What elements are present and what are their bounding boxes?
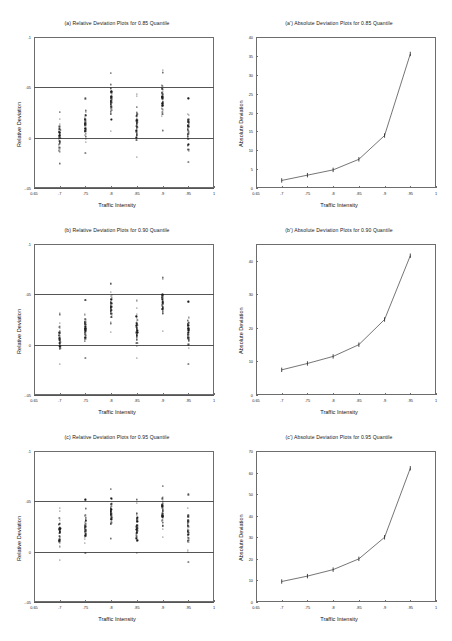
panel-title-c-prime: (c') Absolute Deviation Plots for 0.95 Q… xyxy=(228,434,450,440)
y-tick-label: 10 xyxy=(249,148,253,153)
x-tick-label: .85 xyxy=(356,191,361,196)
x-tick-label: .95 xyxy=(408,398,413,403)
x-axis-title-b: Traffic Intensity xyxy=(6,409,228,415)
x-tick-label: 0.65 xyxy=(30,398,38,403)
y-tick-label: 10 xyxy=(249,578,253,583)
x-tick-label: .9 xyxy=(161,605,164,610)
x-tick-label: 0.65 xyxy=(252,398,260,403)
x-tick-label: .7 xyxy=(280,191,283,196)
x-tick-label: .8 xyxy=(332,605,335,610)
y-tick xyxy=(34,37,36,38)
panel-title-b: (b) Relative Deviation Plots for 0.90 Qu… xyxy=(6,227,228,233)
x-tick-label: .75 xyxy=(305,191,310,196)
plot-area-c: 0.65.7.75.8.85.9.951-.050.05.1 xyxy=(34,451,214,602)
y-tick-label: 30 xyxy=(249,535,253,540)
y-tick-label: .1 xyxy=(28,242,31,247)
x-tick-label: .95 xyxy=(408,191,413,196)
x-tick-label: .8 xyxy=(110,191,113,196)
y-tick-label: -.05 xyxy=(24,600,31,605)
y-tick-label: .1 xyxy=(28,35,31,40)
x-tick xyxy=(436,600,437,602)
x-tick-label: .7 xyxy=(58,605,61,610)
x-tick-label: .7 xyxy=(280,398,283,403)
deviation-curve xyxy=(256,451,436,602)
panel-c: (c) Relative Deviation Plots for 0.95 Qu… xyxy=(6,434,228,634)
y-tick-label: 40 xyxy=(249,35,253,40)
y-tick-label: 20 xyxy=(249,325,253,330)
x-tick-label: .75 xyxy=(305,398,310,403)
x-tick-label: 0.65 xyxy=(30,605,38,610)
reference-line xyxy=(34,188,214,189)
y-tick-label: 10 xyxy=(249,359,253,364)
x-tick-label: 1 xyxy=(213,191,215,196)
x-tick-label: .95 xyxy=(186,398,191,403)
panel-a-prime: (a') Absolute Deviation Plots for 0.85 Q… xyxy=(228,20,450,220)
panel-title-a-prime: (a') Absolute Deviation Plots for 0.85 Q… xyxy=(228,20,450,26)
y-tick-label: 0 xyxy=(251,186,253,191)
x-tick-label: .7 xyxy=(58,398,61,403)
panel-b-prime: (b') Absolute Deviation Plots for 0.90 Q… xyxy=(228,227,450,427)
y-tick xyxy=(34,451,36,452)
y-axis-title-b-prime: Absolute Deviation xyxy=(238,307,244,354)
y-tick-label: .05 xyxy=(26,499,31,504)
y-tick-label: 0 xyxy=(29,135,31,140)
x-tick-label: .7 xyxy=(280,605,283,610)
x-tick-label: .8 xyxy=(110,605,113,610)
panel-c-prime: (c') Absolute Deviation Plots for 0.95 Q… xyxy=(228,434,450,634)
x-tick-label: 1 xyxy=(435,605,437,610)
x-tick-label: .85 xyxy=(134,191,139,196)
x-tick-label: 0.65 xyxy=(30,191,38,196)
x-tick-label: .75 xyxy=(83,191,88,196)
reference-line xyxy=(34,87,214,88)
y-tick-label: 50 xyxy=(249,492,253,497)
x-tick-label: .95 xyxy=(408,605,413,610)
x-tick-label: .9 xyxy=(383,398,386,403)
x-tick-label: 1 xyxy=(213,398,215,403)
x-tick-label: 0.65 xyxy=(252,191,260,196)
x-tick-label: .85 xyxy=(356,605,361,610)
x-tick xyxy=(436,393,437,395)
y-axis-title-a: Relative Deviation xyxy=(16,101,22,146)
y-tick-label: 60 xyxy=(249,470,253,475)
x-axis-title-b-prime: Traffic Intensity xyxy=(228,409,450,415)
panel-title-b-prime: (b') Absolute Deviation Plots for 0.90 Q… xyxy=(228,227,450,233)
y-tick-label: 20 xyxy=(249,556,253,561)
x-tick xyxy=(214,186,215,188)
y-tick xyxy=(256,188,258,189)
x-tick-label: .75 xyxy=(305,605,310,610)
panel-b: (b) Relative Deviation Plots for 0.90 Qu… xyxy=(6,227,228,427)
x-tick-label: 0.65 xyxy=(252,605,260,610)
y-tick-label: 15 xyxy=(249,129,253,134)
reference-line xyxy=(34,501,214,502)
x-tick xyxy=(214,393,215,395)
y-tick-label: 70 xyxy=(249,449,253,454)
x-tick-label: .85 xyxy=(134,398,139,403)
x-axis-title-a: Traffic Intensity xyxy=(6,202,228,208)
y-tick-label: 40 xyxy=(249,258,253,263)
x-axis-title-a-prime: Traffic Intensity xyxy=(228,202,450,208)
y-tick-label: .05 xyxy=(26,292,31,297)
plot-area-a-prime: 0.65.7.75.8.85.9.9510510152025303540 xyxy=(256,37,436,188)
x-axis-title-c-prime: Traffic Intensity xyxy=(228,616,450,622)
reference-line xyxy=(34,602,214,603)
y-tick-label: 30 xyxy=(249,72,253,77)
x-tick-label: .9 xyxy=(383,605,386,610)
x-tick-label: .95 xyxy=(186,191,191,196)
x-tick-label: .9 xyxy=(161,191,164,196)
y-tick-label: .05 xyxy=(26,85,31,90)
reference-line xyxy=(34,294,214,295)
x-tick-label: 1 xyxy=(213,605,215,610)
x-tick-label: .85 xyxy=(134,605,139,610)
panel-title-c: (c) Relative Deviation Plots for 0.95 Qu… xyxy=(6,434,228,440)
x-tick xyxy=(436,186,437,188)
plot-area-a: 0.65.7.75.8.85.9.951-.050.05.1 xyxy=(34,37,214,188)
x-tick-label: .75 xyxy=(83,398,88,403)
deviation-curve xyxy=(256,37,436,188)
x-tick-label: .85 xyxy=(356,398,361,403)
y-tick-label: 0 xyxy=(251,600,253,605)
x-tick-label: .7 xyxy=(58,191,61,196)
plot-area-b-prime: 0.65.7.75.8.85.9.951010203040 xyxy=(256,244,436,395)
y-tick-label: .1 xyxy=(28,449,31,454)
y-tick-label: 20 xyxy=(249,110,253,115)
x-tick-label: .8 xyxy=(332,398,335,403)
